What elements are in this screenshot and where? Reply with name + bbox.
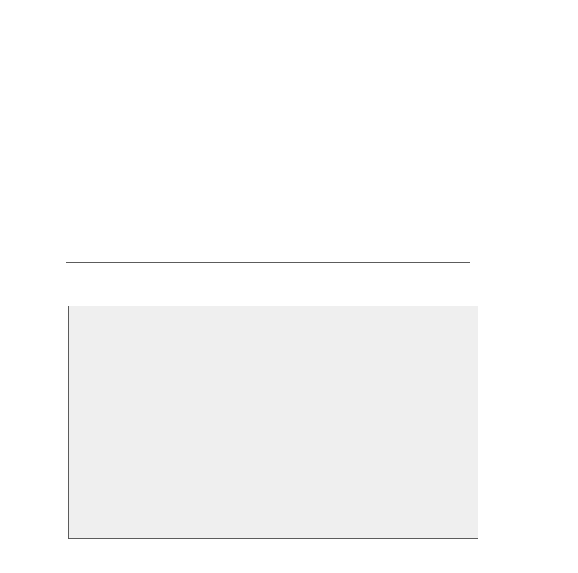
bottom-chart-panel xyxy=(0,288,578,573)
figure-container xyxy=(0,0,578,573)
top-chart-svg xyxy=(0,0,578,288)
bottom-chart-svg xyxy=(0,288,578,573)
bottom-chart-plot-background xyxy=(68,306,478,538)
top-chart-panel xyxy=(0,0,578,288)
